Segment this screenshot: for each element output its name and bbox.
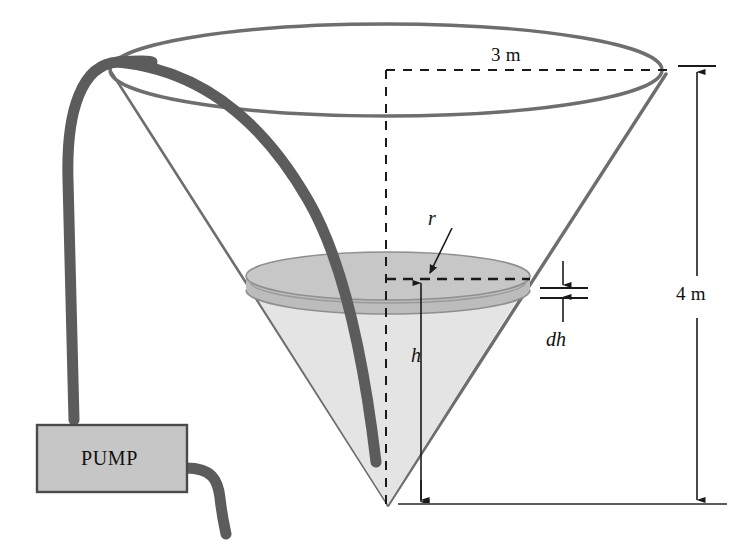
hose-outlet-curve	[186, 468, 226, 534]
depth-symbol-label: h	[411, 344, 421, 367]
cone-pump-diagram: 3 m 4 m r h dh PUMP	[0, 0, 737, 546]
top-diameter-label: 3 m	[491, 44, 521, 66]
radius-symbol-label: r	[428, 207, 436, 230]
slab-thickness-dimension	[540, 261, 588, 322]
cone-height-label: 4 m	[676, 283, 706, 305]
water-slab-dh	[246, 252, 530, 314]
water-surface-ellipse	[246, 252, 530, 300]
hose-outlet	[186, 468, 226, 534]
pump-label: PUMP	[81, 447, 138, 470]
slab-thickness-label: dh	[546, 328, 566, 351]
